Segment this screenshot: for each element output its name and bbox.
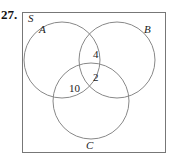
region-abc-value: 2 [93,71,99,83]
circle-c [53,63,129,139]
set-label-c: C [86,139,94,151]
set-label-b: B [144,23,151,35]
universe-label: S [28,12,34,24]
circle-a [24,22,100,98]
region-ac-value: 10 [69,82,81,94]
set-label-a: A [38,23,46,35]
venn-diagram: S A B C 4 2 10 [0,0,173,155]
region-ab-value: 4 [93,48,99,60]
